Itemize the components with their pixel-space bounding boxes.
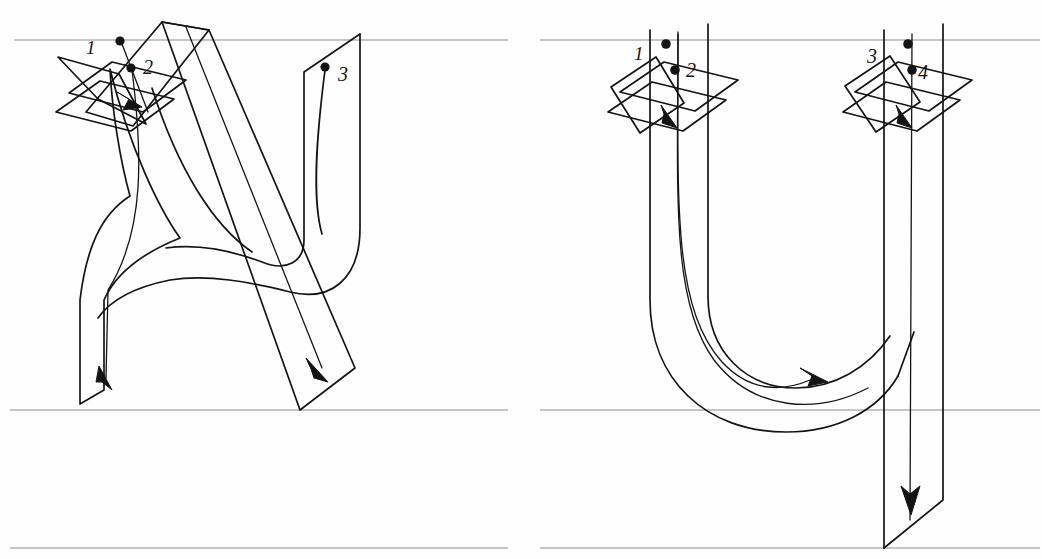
panel-left-drawing bbox=[0, 0, 511, 559]
nib-guide-diamonds-left bbox=[56, 62, 186, 131]
u-stroke-4-right-edge bbox=[884, 24, 943, 548]
u-stroke-2-exit bbox=[898, 332, 914, 376]
u-start-dot-stroke-2 bbox=[670, 65, 680, 75]
start-dot-stroke-1 bbox=[115, 36, 124, 45]
stroke-number-3: 3 bbox=[338, 64, 348, 84]
u-stroke-2-centerline bbox=[677, 32, 868, 404]
arrow-shafts-right bbox=[678, 34, 810, 387]
u-start-dot-stroke-3 bbox=[903, 39, 913, 49]
stroke-3-body bbox=[86, 22, 355, 410]
panel-letter-x: 1 2 3 bbox=[0, 0, 511, 559]
guide-lines-right bbox=[540, 40, 1040, 548]
panel-right-drawing bbox=[538, 0, 1042, 559]
start-dot-stroke-3 bbox=[320, 62, 329, 71]
stroke-number-2: 2 bbox=[143, 57, 153, 77]
u-stroke-number-3: 3 bbox=[867, 46, 877, 66]
long-diagonal-centerline bbox=[186, 27, 322, 368]
stroke-3-centerline bbox=[316, 70, 325, 234]
start-dots-right bbox=[661, 39, 917, 75]
u-arrow-stroke-2-shaft bbox=[678, 34, 810, 387]
arrows-right bbox=[661, 105, 920, 515]
u-stroke-number-2: 2 bbox=[686, 60, 696, 80]
u-stroke-number-4: 4 bbox=[918, 62, 928, 82]
stroke-order-figure: 1 2 3 bbox=[0, 0, 1042, 559]
arrow-stroke-3-head bbox=[306, 358, 328, 382]
u-arrow-stroke-2-head bbox=[800, 368, 828, 386]
stroke-number-1: 1 bbox=[86, 38, 95, 57]
start-dot-stroke-2 bbox=[126, 63, 135, 72]
panel-letter-u: 1 2 3 4 bbox=[538, 0, 1042, 559]
letter-x-outline bbox=[58, 22, 360, 410]
u-stroke-number-1: 1 bbox=[634, 44, 643, 63]
u-start-dot-stroke-1 bbox=[661, 39, 671, 49]
u-start-dot-stroke-4 bbox=[907, 65, 917, 75]
stroke-2-body bbox=[80, 69, 252, 404]
stroke-2-centerline bbox=[106, 70, 139, 378]
